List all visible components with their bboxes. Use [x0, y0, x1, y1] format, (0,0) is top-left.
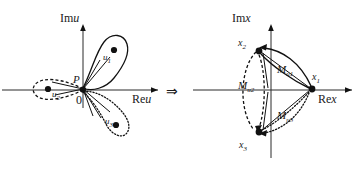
petal-u1-label: u1 [103, 52, 111, 65]
point-P-label: P [72, 73, 80, 85]
point-P-marker [80, 86, 86, 92]
point-x2-label: x2 [237, 37, 246, 51]
left-axis-imaginary-label: Imu [60, 11, 79, 25]
diagram-svg: Imu Reu P 0 u1 u2 u3 ⇒ [0, 0, 361, 180]
petal-u2-label: u2 [52, 89, 61, 102]
point-x3-label: x3 [238, 139, 247, 153]
right-plane-group: Imx Rex x1 x2 x3 Mu1 Mu2 Mu3 [193, 11, 352, 158]
petal-u3-dot [113, 122, 119, 128]
left-plane-group: Imu Reu P 0 u1 u2 u3 [2, 11, 158, 136]
petal-u2-dot [45, 86, 51, 92]
monodromy-label-u1: Mu1 [276, 63, 293, 78]
petal-u3 [83, 91, 129, 135]
transition-arrow: ⇒ [166, 84, 178, 99]
petal-u1-dot [111, 47, 117, 53]
svg-text:⇒: ⇒ [166, 84, 178, 99]
petal-u3-label: u3 [105, 116, 114, 129]
point-x2-marker [256, 48, 263, 55]
monodromy-label-u2: Mu2 [237, 79, 255, 94]
point-x3-marker [256, 129, 263, 136]
point-x1-label: x1 [311, 71, 320, 85]
left-origin-label: 0 [76, 93, 82, 107]
right-axis-real-label: Rex [318, 92, 337, 106]
monodromy-label-u3: Mu3 [276, 109, 294, 124]
figure-canvas: Imu Reu P 0 u1 u2 u3 ⇒ [0, 0, 361, 180]
point-x1-marker [309, 86, 316, 93]
right-axis-imaginary-label: Imx [232, 11, 251, 25]
left-axis-real-label: Reu [132, 92, 151, 106]
right-imaginary-axis [268, 24, 274, 158]
